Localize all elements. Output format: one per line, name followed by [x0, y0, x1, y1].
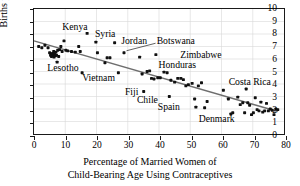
y-tick-mark [30, 9, 34, 10]
x-tick-label: 60 [212, 141, 234, 151]
y-tick-mark [30, 111, 34, 112]
y-tick-mark [30, 98, 34, 99]
scatter-plot-figure: Births per Woman 012345678910 0102030405… [0, 0, 300, 186]
y-tick-label: 8 [261, 29, 277, 39]
annotation-botswana: Botswana [157, 36, 195, 46]
annotation-spain: Spain [158, 102, 180, 112]
y-tick-label: 2 [261, 106, 277, 116]
x-tick-label: 30 [118, 141, 140, 151]
annotation-chile: Chile [137, 95, 158, 105]
y-tick-mark [30, 47, 34, 48]
annotation-honduras: Honduras [158, 60, 196, 70]
x-tick-label: 10 [55, 141, 77, 151]
y-tick-label: 1 [261, 118, 277, 128]
annotation-jordan: Jordan [121, 36, 147, 46]
y-tick-mark [30, 22, 34, 23]
annotation-vietnam: Vietnam [82, 73, 115, 83]
y-tick-mark [30, 60, 34, 61]
x-axis-title: Percentage of Married Women of Child-Bea… [0, 156, 300, 181]
y-tick-label: 7 [261, 42, 277, 52]
x-tick-label: 50 [181, 141, 203, 151]
x-axis-title-line-2: Child-Bearing Age Using Contraceptives [0, 169, 300, 182]
annotation-lesotho: Lesotho [47, 63, 78, 73]
x-tick-label: 70 [244, 141, 266, 151]
y-tick-mark [30, 73, 34, 74]
y-tick-label: 10 [261, 4, 277, 14]
plot-area: 012345678910 01020304050607080 KenyaSyri… [33, 8, 285, 135]
y-axis-title: Births per Woman [0, 0, 9, 34]
annotation-denmark: Denmark [199, 114, 235, 124]
annotation-costa-rica: Costa Rica [229, 77, 271, 87]
annotation-kenya: Kenya [62, 22, 87, 32]
y-tick-mark [30, 85, 34, 86]
x-tick-label: 80 [275, 141, 297, 151]
x-tick-label: 20 [86, 141, 108, 151]
y-tick-label: 0 [261, 131, 277, 141]
annotation-syria: Syria [95, 29, 115, 39]
y-tick-label: 9 [261, 17, 277, 27]
x-tick-label: 40 [149, 141, 171, 151]
y-tick-mark [30, 34, 34, 35]
y-tick-mark [30, 123, 34, 124]
y-tick-label: 3 [261, 93, 277, 103]
x-tick-label: 0 [23, 141, 45, 151]
y-tick-label: 6 [261, 55, 277, 65]
x-axis-title-line-1: Percentage of Married Women of [0, 156, 300, 169]
